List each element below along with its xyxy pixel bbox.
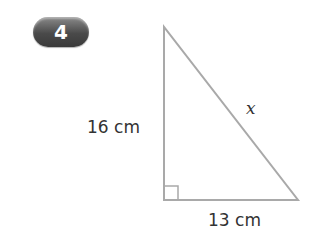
triangle-outline [164,27,298,200]
hypotenuse-label: x [246,98,256,118]
horizontal-side-label: 13 cm [208,210,261,230]
vertical-side-label: 16 cm [87,117,140,137]
right-angle-marker [164,186,178,200]
right-triangle-diagram [0,0,310,233]
